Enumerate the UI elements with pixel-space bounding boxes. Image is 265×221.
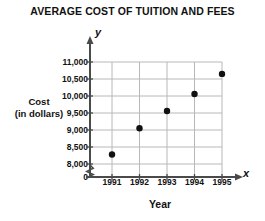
plot-area (0, 0, 265, 221)
x-axis-arrowhead (235, 174, 243, 181)
axis-lines (86, 36, 243, 181)
horizontal-gridlines (90, 62, 222, 164)
data-point (191, 91, 197, 97)
data-point (109, 151, 115, 157)
data-point (164, 108, 170, 114)
scatter-chart-figure: AVERAGE COST OF TUITION AND FEES y x Cos… (0, 0, 265, 221)
data-point (219, 71, 225, 77)
data-point (136, 125, 142, 131)
y-axis-arrowhead (87, 36, 94, 44)
